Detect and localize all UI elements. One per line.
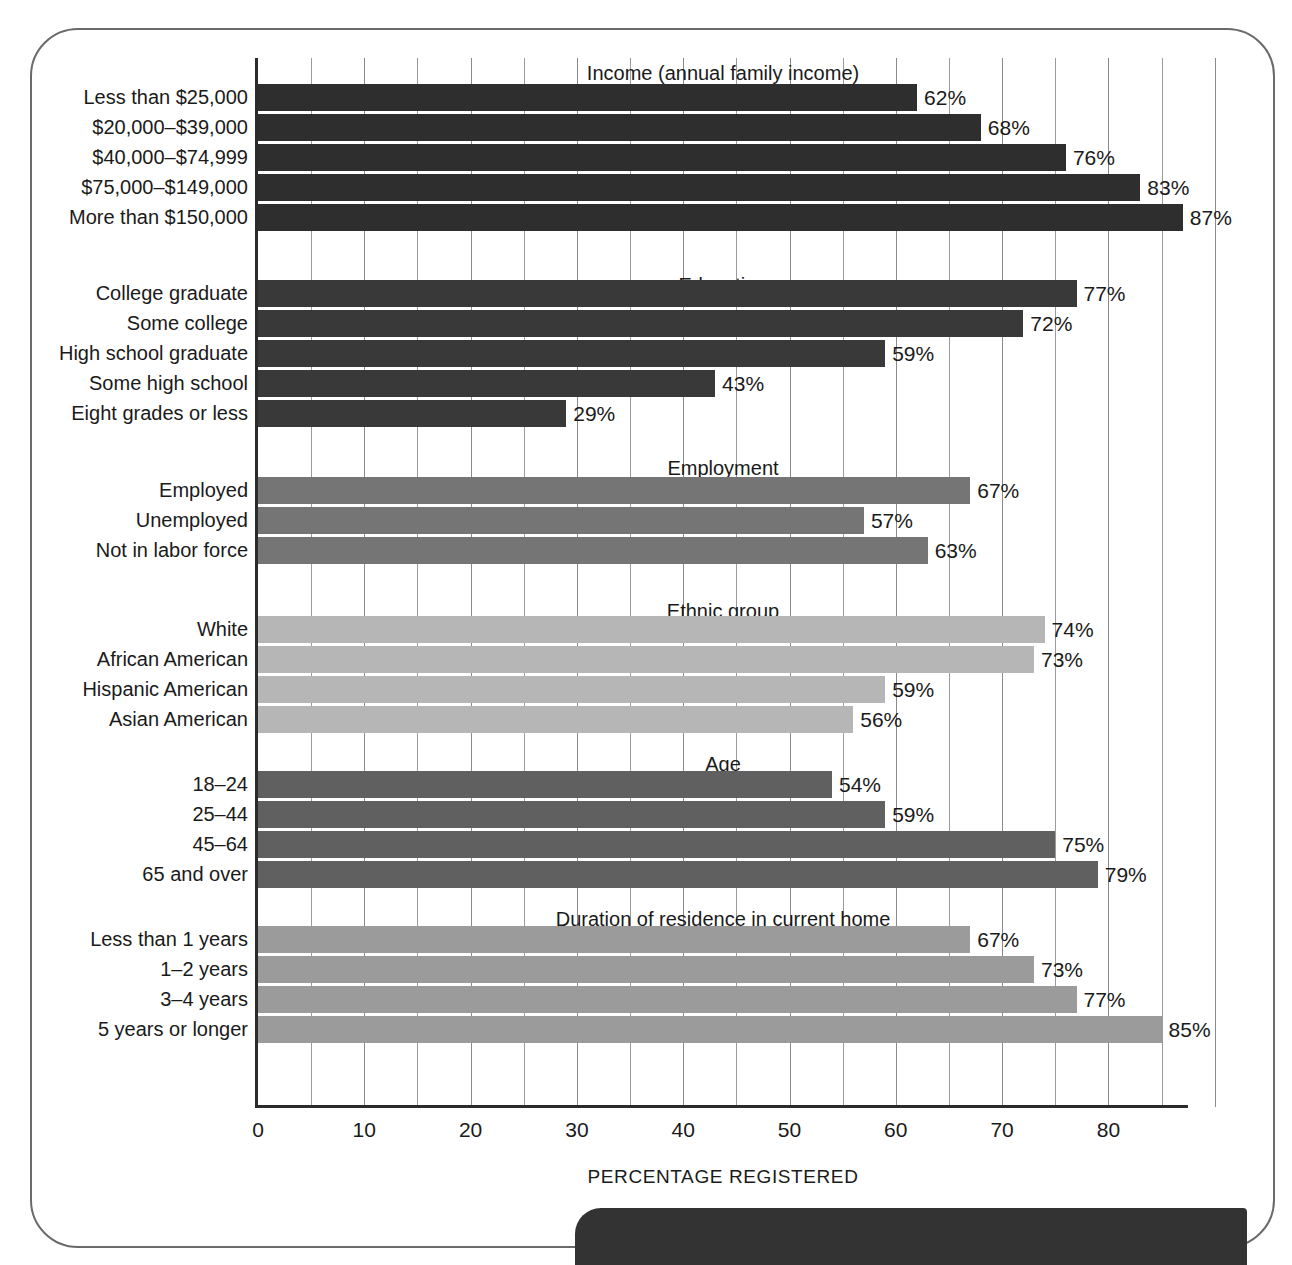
bar-category-label: Less than 1 years	[0, 926, 248, 953]
bar-category-label: African American	[0, 646, 248, 673]
grouped-horizontal-bar-chart: Income (annual family income)Less than $…	[0, 0, 1292, 1265]
bar-value-label: 67%	[977, 477, 1019, 504]
bar-row: 18–2454%	[0, 771, 1292, 798]
bar	[258, 477, 970, 504]
bar-row: 3–4 years77%	[0, 986, 1292, 1013]
bar-category-label: Asian American	[0, 706, 248, 733]
bar	[258, 646, 1034, 673]
bar-row: Asian American56%	[0, 706, 1292, 733]
bar-category-label: $40,000–$74,999	[0, 144, 248, 171]
bar-row: $20,000–$39,00068%	[0, 114, 1292, 141]
bar-value-label: 59%	[892, 340, 934, 367]
bar	[258, 507, 864, 534]
bar-row: 65 and over79%	[0, 861, 1292, 888]
bar-value-label: 79%	[1105, 861, 1147, 888]
bar-value-label: 57%	[871, 507, 913, 534]
bar	[258, 801, 885, 828]
bar-value-label: 83%	[1147, 174, 1189, 201]
bar-category-label: $20,000–$39,000	[0, 114, 248, 141]
bar-row: Eight grades or less29%	[0, 400, 1292, 427]
bar-value-label: 73%	[1041, 956, 1083, 983]
bar-row: High school graduate59%	[0, 340, 1292, 367]
bar-category-label: More than $150,000	[0, 204, 248, 231]
bar-category-label: 65 and over	[0, 861, 248, 888]
bar-value-label: 56%	[860, 706, 902, 733]
bar-value-label: 59%	[892, 801, 934, 828]
x-tick-label: 40	[653, 1118, 713, 1142]
bar	[258, 144, 1066, 171]
bar-row: More than $150,00087%	[0, 204, 1292, 231]
bar	[258, 676, 885, 703]
bar-value-label: 76%	[1073, 144, 1115, 171]
bar-value-label: 67%	[977, 926, 1019, 953]
bar-value-label: 54%	[839, 771, 881, 798]
bar-row: 1–2 years73%	[0, 956, 1292, 983]
bar-value-label: 72%	[1030, 310, 1072, 337]
bar-category-label: Eight grades or less	[0, 400, 248, 427]
bar-category-label: Less than $25,000	[0, 84, 248, 111]
x-tick-label: 50	[760, 1118, 820, 1142]
bar	[258, 861, 1098, 888]
bar-category-label: 45–64	[0, 831, 248, 858]
bar-value-label: 73%	[1041, 646, 1083, 673]
bar-category-label: 18–24	[0, 771, 248, 798]
bar-value-label: 85%	[1169, 1016, 1211, 1043]
bar-category-label: Hispanic American	[0, 676, 248, 703]
bar	[258, 1016, 1162, 1043]
x-tick-label: 0	[228, 1118, 288, 1142]
x-tick-label: 80	[1078, 1118, 1138, 1142]
x-tick-label: 10	[334, 1118, 394, 1142]
bar-value-label: 77%	[1084, 280, 1126, 307]
bar	[258, 831, 1055, 858]
bar	[258, 114, 981, 141]
bar-row: Some college72%	[0, 310, 1292, 337]
x-tick-label: 30	[547, 1118, 607, 1142]
bar-row: Employed67%	[0, 477, 1292, 504]
bar-row: Not in labor force63%	[0, 537, 1292, 564]
bar-value-label: 62%	[924, 84, 966, 111]
bar-category-label: College graduate	[0, 280, 248, 307]
bar-category-label: Some high school	[0, 370, 248, 397]
bar	[258, 616, 1045, 643]
bar-row: Some high school43%	[0, 370, 1292, 397]
bar	[258, 340, 885, 367]
bar-category-label: $75,000–$149,000	[0, 174, 248, 201]
bar-row: Less than 1 years67%	[0, 926, 1292, 953]
bar-value-label: 63%	[935, 537, 977, 564]
bar-row: Hispanic American59%	[0, 676, 1292, 703]
bar	[258, 400, 566, 427]
bar	[258, 370, 715, 397]
group-title: Income (annual family income)	[258, 62, 1188, 85]
x-tick-label: 60	[866, 1118, 926, 1142]
bar-category-label: 5 years or longer	[0, 1016, 248, 1043]
bar	[258, 706, 853, 733]
bar-category-label: Employed	[0, 477, 248, 504]
bar-row: 45–6475%	[0, 831, 1292, 858]
x-tick-label: 20	[441, 1118, 501, 1142]
bar	[258, 174, 1140, 201]
bar-value-label: 68%	[988, 114, 1030, 141]
bar-value-label: 87%	[1190, 204, 1232, 231]
bar-value-label: 29%	[573, 400, 615, 427]
bar-row: College graduate77%	[0, 280, 1292, 307]
bar-value-label: 43%	[722, 370, 764, 397]
bar-row: $75,000–$149,00083%	[0, 174, 1292, 201]
bar-row: Less than $25,00062%	[0, 84, 1292, 111]
bar	[258, 204, 1183, 231]
bar-category-label: Not in labor force	[0, 537, 248, 564]
bar-category-label: Unemployed	[0, 507, 248, 534]
x-tick-label: 70	[972, 1118, 1032, 1142]
bar-category-label: Some college	[0, 310, 248, 337]
x-axis-line	[255, 1105, 1188, 1108]
bar-value-label: 75%	[1062, 831, 1104, 858]
bar-value-label: 74%	[1052, 616, 1094, 643]
bar	[258, 771, 832, 798]
bar-row: White74%	[0, 616, 1292, 643]
bar	[258, 956, 1034, 983]
bar	[258, 926, 970, 953]
bar-row: 25–4459%	[0, 801, 1292, 828]
bar-category-label: 1–2 years	[0, 956, 248, 983]
bar	[258, 986, 1077, 1013]
bar	[258, 537, 928, 564]
bar	[258, 280, 1077, 307]
